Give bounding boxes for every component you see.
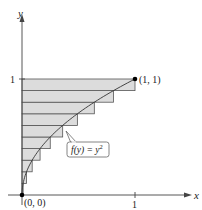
rectangle-strip: [22, 102, 94, 114]
x-axis-arrow-icon: [184, 193, 192, 198]
y-tick-label: 1: [10, 74, 15, 85]
rectangle-strip: [22, 91, 114, 103]
x-axis-label: x: [193, 189, 199, 201]
function-label: f(y) = y2: [71, 143, 103, 156]
x-tick-label: 1: [132, 199, 137, 210]
approximating-rectangles: [22, 79, 135, 195]
function-label-callout: f(y) = y2: [66, 131, 109, 157]
riemann-sum-diagram: x y 1 1 (0, 0) (1, 1) f(y) = y2: [0, 0, 202, 210]
rectangle-strip: [22, 137, 50, 149]
y-axis-label: y: [17, 7, 23, 19]
point-origin-label: (0, 0): [24, 197, 46, 209]
point-one-one-label: (1, 1): [139, 74, 161, 86]
point-one-one: [133, 77, 138, 82]
rectangle-strip: [22, 79, 135, 91]
rectangle-strip: [22, 149, 40, 161]
